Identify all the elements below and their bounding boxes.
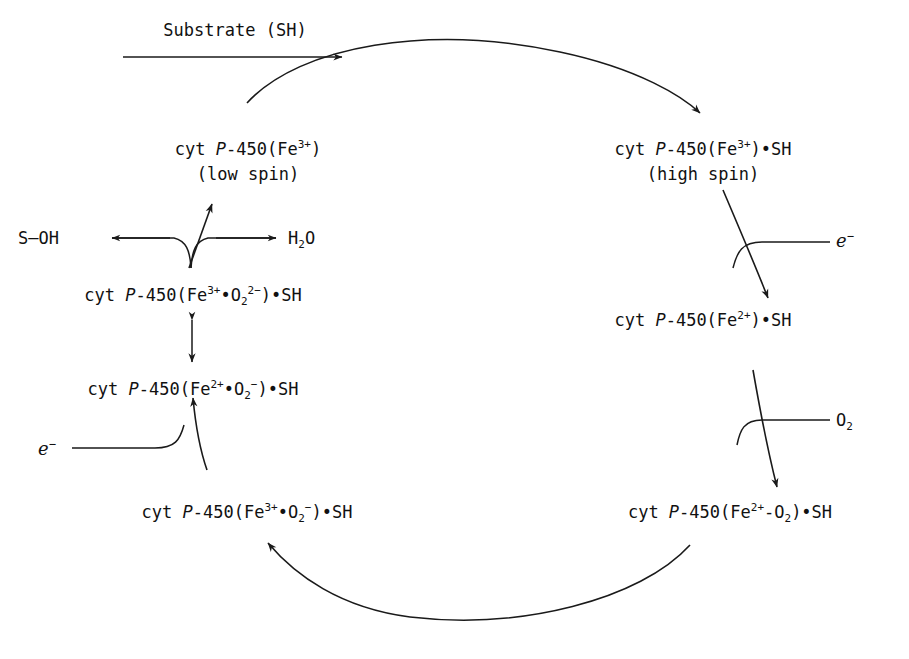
species-text: cyt P-450(Fe3+)•SH <box>614 139 791 159</box>
species-ferrous-superoxide: cyt P-450(Fe2+•O2−)•SH <box>88 377 299 402</box>
oxygen-input-line <box>737 420 830 445</box>
product-release-fork <box>112 204 276 268</box>
p450-cycle-diagram: Substrate (SH) cyt P-450(Fe3+) (low spin… <box>0 0 909 659</box>
species-text: cyt P-450(Fe3+•O2−)•SH <box>142 502 353 522</box>
species-text: cyt P-450(Fe2+-O2)•SH <box>628 502 832 522</box>
species-spin-state: (low spin) <box>175 162 321 187</box>
species-text: cyt P-450(Fe3+) <box>175 139 321 159</box>
water-product-label: H2O <box>288 226 315 251</box>
electron-input-left-label: e− <box>38 436 56 461</box>
electron-input-right-label: e− <box>836 228 854 253</box>
species-ferric-low-spin: cyt P-450(Fe3+) (low spin) <box>175 137 321 187</box>
left-lower-cycle-arrow <box>193 398 207 470</box>
species-ferric-substrate-high-spin: cyt P-450(Fe3+)•SH (high spin) <box>614 137 791 187</box>
electron-input-right-line <box>733 242 830 268</box>
species-ferric-peroxide: cyt P-450(Fe3+•O22−)•SH <box>84 283 301 308</box>
product-soh-label: S—OH <box>18 226 59 251</box>
species-ferrous-dioxygen: cyt P-450(Fe2+-O2)•SH <box>628 500 832 525</box>
top-cycle-arc <box>247 40 700 113</box>
species-text: cyt P-450(Fe3+•O22−)•SH <box>84 285 301 305</box>
species-text: cyt P-450(Fe2+•O2−)•SH <box>88 379 299 399</box>
electron-input-left-line <box>72 425 184 448</box>
species-text: cyt P-450(Fe2+)•SH <box>614 310 791 330</box>
substrate-input-label: Substrate (SH) <box>163 18 306 43</box>
species-spin-state: (high spin) <box>614 162 791 187</box>
right-lower-cycle-arc <box>753 370 777 487</box>
species-ferric-superoxide: cyt P-450(Fe3+•O2−)•SH <box>142 500 353 525</box>
species-ferrous-substrate: cyt P-450(Fe2+)•SH <box>614 308 791 333</box>
bottom-cycle-arc <box>268 543 690 620</box>
right-upper-cycle-arc <box>723 190 768 298</box>
oxygen-input-label: O2 <box>836 408 853 433</box>
